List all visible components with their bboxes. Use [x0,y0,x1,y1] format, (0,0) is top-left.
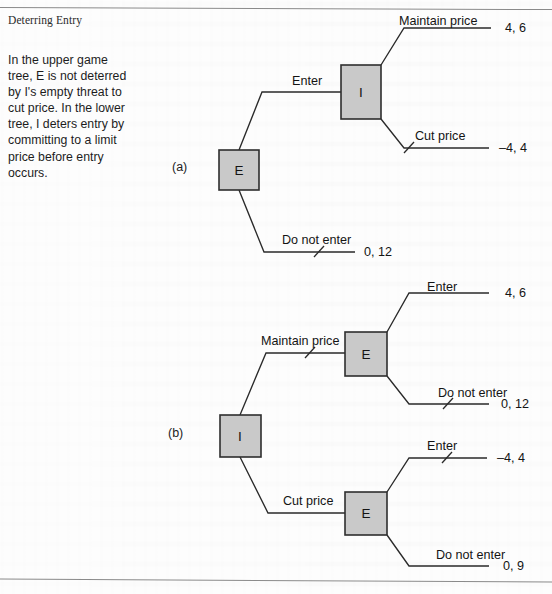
figure-page: Deterring Entry In the upper game tree, … [0,0,552,594]
game-tree-b: I E E [0,0,552,594]
branch-b-enter-lower [387,458,487,492]
payoff-b-maintain-enter: 4, 6 [505,286,526,300]
node-b-entrant-upper-label: E [361,347,370,362]
edge-label-b-maintain-price: Maintain price [261,334,339,348]
node-b-incumbent-label: I [238,429,242,444]
payoff-b-cut-do-not-enter: 0, 9 [503,559,524,573]
payoff-b-maintain-do-not-enter: 0, 12 [501,397,529,411]
edge-label-b-do-not-enter-lower: Do not enter [436,548,505,562]
edge-label-b-enter-lower: Enter [427,439,457,453]
edge-label-b-cut-price: Cut price [283,494,333,508]
branch-b-enter-upper [387,293,489,332]
branch-b-maintain-price [240,353,345,415]
edge-label-b-do-not-enter-upper: Do not enter [438,386,507,400]
node-b-entrant-lower-label: E [361,506,370,521]
payoff-b-cut-enter: –4, 4 [497,451,525,465]
edge-label-b-enter-upper: Enter [427,280,457,294]
